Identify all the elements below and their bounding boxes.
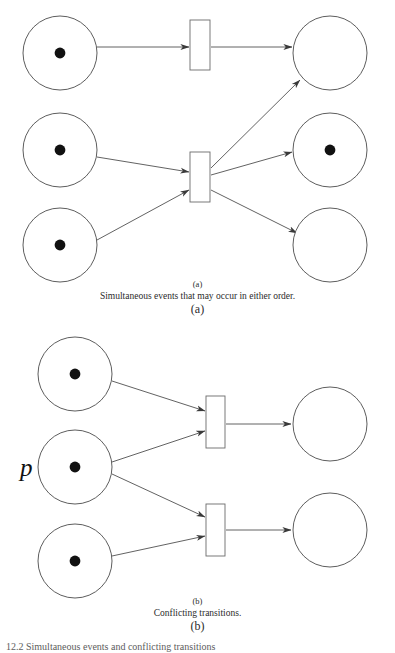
token-a-in-3: [55, 240, 66, 251]
panel-a-arcs: [97, 47, 300, 240]
transition-a-mid[interactable]: [190, 152, 210, 202]
arc-a-in2-to-tmid: [97, 157, 189, 172]
panel-b-tag-above: (b): [0, 596, 395, 607]
petri-net-figure: p (a) Simultaneous events that may occur…: [0, 0, 395, 653]
transition-a-top[interactable]: [190, 20, 210, 70]
panel-a-graph: [23, 16, 367, 282]
panel-b-caption-text: Conflicting transitions.: [0, 607, 395, 619]
panel-b-transitions: [206, 396, 225, 556]
token-a-in-2: [55, 145, 66, 156]
place-b-out-1[interactable]: [293, 387, 367, 461]
token-b-in-2: [70, 462, 81, 473]
token-b-in-3: [70, 556, 81, 567]
panel-b-places: [38, 337, 367, 598]
arc-a-in3-to-tmid: [97, 190, 189, 240]
arc-b-in3-to-tbot: [112, 536, 205, 556]
petri-net-canvas: p: [0, 0, 395, 653]
place-b-out-2[interactable]: [293, 493, 367, 567]
transition-b-bottom[interactable]: [206, 504, 225, 556]
arc-b-in2-to-ttop: [112, 431, 205, 462]
place-a-out-3[interactable]: [293, 208, 367, 282]
arc-a-tmid-to-out1: [211, 80, 300, 168]
place-label-p: p: [18, 454, 33, 481]
panel-a-transitions: [190, 20, 210, 202]
place-a-out-1[interactable]: [293, 16, 367, 90]
arc-b-in1-to-ttop: [112, 381, 205, 411]
transition-b-top[interactable]: [206, 396, 225, 448]
panel-b-caption-block: (b) Conflicting transitions. (b): [0, 596, 395, 633]
arc-b-in2-to-tbot: [112, 474, 205, 517]
arc-a-tmid-to-out3: [211, 190, 297, 233]
panel-b-graph: p: [18, 337, 367, 598]
token-b-in-1: [70, 369, 81, 380]
panel-b-arcs: [112, 381, 291, 556]
panel-a-tag-below: (a): [0, 302, 395, 316]
panel-a-caption-text: Simultaneous events that may occur in ei…: [0, 290, 395, 302]
token-a-in-1: [55, 48, 66, 59]
panel-b-tag-below: (b): [0, 619, 395, 633]
token-a-out-2: [325, 145, 336, 156]
panel-a-caption-block: (a) Simultaneous events that may occur i…: [0, 279, 395, 316]
figure-footnote: 12.2 Simultaneous events and conflicting…: [6, 641, 395, 653]
panel-a-tag-above: (a): [0, 279, 395, 290]
